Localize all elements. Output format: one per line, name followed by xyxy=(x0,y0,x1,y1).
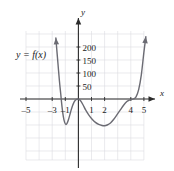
ytick-label-100: 100 xyxy=(83,69,97,79)
graph-canvas: 50 100 150 200 –5 –3 –1 1 2 4 5 x y y = … xyxy=(0,0,174,171)
y-axis-arrow xyxy=(76,18,82,25)
xtick-label-5: 5 xyxy=(142,105,147,115)
xtick-label-minus5: –5 xyxy=(21,105,32,115)
y-axis-label: y xyxy=(80,7,85,17)
x-axis-label: x xyxy=(159,88,164,98)
polynomial-graph-figure: 50 100 150 200 –5 –3 –1 1 2 4 5 x y y = … xyxy=(0,0,174,171)
ytick-label-150: 150 xyxy=(83,56,97,66)
xtick-label-4: 4 xyxy=(129,105,134,115)
x-axis-arrow xyxy=(149,96,156,102)
xtick-label-minus3: –3 xyxy=(47,105,58,115)
y-axis xyxy=(76,18,82,168)
xtick-label-2: 2 xyxy=(102,105,107,115)
curve-left-arrow xyxy=(54,38,59,45)
ytick-label-200: 200 xyxy=(83,43,97,53)
xtick-label-minus1: –1 xyxy=(60,105,70,115)
xtick-label-1: 1 xyxy=(89,105,94,115)
function-label: y = f(x) xyxy=(15,49,47,61)
ytick-label-50: 50 xyxy=(83,82,93,92)
